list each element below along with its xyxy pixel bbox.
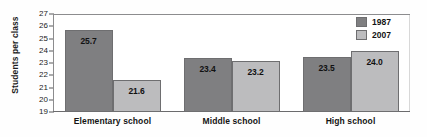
category-label-high-school: High school xyxy=(326,116,376,126)
y-axis-tick-label: 20 xyxy=(39,96,48,104)
y-axis-tick-label: 25 xyxy=(39,35,48,43)
chart-legend: 19872007 xyxy=(356,17,391,40)
bar-2007-high-school: 24.0 xyxy=(351,51,399,112)
bar-2007-middle-school: 23.2 xyxy=(232,61,280,112)
legend-swatch-icon xyxy=(356,30,367,40)
bar-chart-screenshot: Students per class 272625242322212019 25… xyxy=(0,0,427,137)
bar-1987-middle-school: 23.4 xyxy=(184,58,232,112)
y-axis-tick-label: 21 xyxy=(39,84,48,92)
bar-2007-elementary-school: 21.6 xyxy=(113,80,161,112)
bar-value-label: 25.7 xyxy=(80,36,96,46)
legend-item-2007: 2007 xyxy=(356,30,391,40)
x-axis-category-labels: Elementary schoolMiddle schoolHigh schoo… xyxy=(53,116,410,132)
legend-item-1987: 1987 xyxy=(356,17,391,27)
y-axis: 272625242322212019 xyxy=(28,14,53,112)
bar-value-label: 23.2 xyxy=(247,67,263,77)
y-axis-tick-label: 23 xyxy=(39,59,48,67)
bar-1987-high-school: 23.5 xyxy=(303,57,351,112)
y-axis-tick-label: 19 xyxy=(39,108,48,116)
bar-value-label: 21.6 xyxy=(128,86,144,96)
category-label-elementary-school: Elementary school xyxy=(74,116,151,126)
bar-1987-elementary-school: 25.7 xyxy=(65,30,113,112)
y-axis-tick-label: 22 xyxy=(39,71,48,79)
legend-swatch-icon xyxy=(356,17,367,27)
y-axis-title: Students per class xyxy=(10,0,20,110)
y-axis-tick-label: 24 xyxy=(39,47,48,55)
legend-label: 1987 xyxy=(372,18,391,27)
y-axis-tick-label: 26 xyxy=(39,22,48,30)
bar-value-label: 24.0 xyxy=(366,57,382,67)
legend-label: 2007 xyxy=(372,31,391,40)
y-axis-tick-label: 27 xyxy=(39,10,48,18)
bar-value-label: 23.5 xyxy=(318,63,334,73)
category-label-middle-school: Middle school xyxy=(203,116,261,126)
bar-value-label: 23.4 xyxy=(199,64,215,74)
